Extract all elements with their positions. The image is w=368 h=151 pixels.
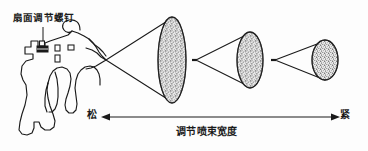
scale-left-label-loose: 松 [87,110,97,120]
port-square-1 [55,45,60,51]
adjustment-scale-arrow [101,114,340,121]
fan-adjustment-screw-label: 扇面调节螺钉 [13,13,74,23]
arrowhead-right [331,114,340,121]
spray-cone-medium [192,32,263,88]
spray-cone-narrow [271,40,338,80]
arrowhead-left [101,114,110,121]
port-square-2 [55,55,60,62]
gun-control-ports [55,45,74,62]
scale-center-label-spray-width: 调节喷束宽度 [176,127,238,137]
spray-gun-diagram: 扇面调节螺钉 松 紧 调节喷束宽度 [0,0,368,151]
port-square-3 [68,45,74,50]
scale-right-label-tight: 紧 [340,110,350,120]
spray-cone-wide [106,17,186,103]
